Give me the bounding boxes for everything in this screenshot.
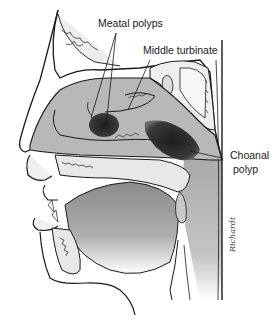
label-meatal-polyps: Meatal polyps (98, 18, 163, 29)
artist-signature: Richardt (228, 217, 237, 252)
oral-cavity (65, 182, 186, 274)
label-middle-turbinate: Middle turbinate (143, 45, 218, 56)
nasal-cavity-illustration (0, 0, 280, 322)
label-choanal-polyp-line2: polyp (233, 164, 258, 175)
label-choanal-polyp-line1: Choanal (230, 150, 269, 161)
